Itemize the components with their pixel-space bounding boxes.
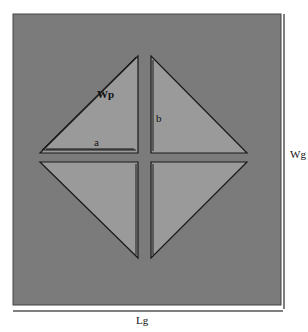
label-wg: Wg	[290, 149, 306, 160]
label-wp: Wp	[97, 89, 114, 100]
antenna-diagram	[0, 0, 308, 332]
label-a: a	[94, 137, 99, 148]
ground-plane	[13, 14, 281, 305]
label-b: b	[156, 113, 162, 124]
label-lg: Lg	[136, 315, 148, 326]
